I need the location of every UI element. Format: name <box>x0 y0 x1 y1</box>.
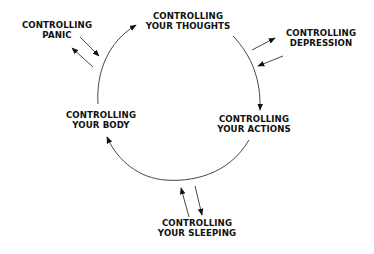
node-controlling-your-body: CONTROLLING YOUR BODY <box>58 110 144 130</box>
node-controlling-your-actions: CONTROLLING YOUR ACTIONS <box>210 114 298 134</box>
arrow-to-sleeping <box>195 186 202 215</box>
node-body-line1: CONTROLLING <box>58 110 144 120</box>
node-sleeping-line2: YOUR SLEEPING <box>152 228 242 238</box>
arrow-from-depression <box>258 56 283 66</box>
arrow-to-depression <box>252 38 275 50</box>
node-actions-line2: YOUR ACTIONS <box>210 124 298 134</box>
node-panic-line1: CONTROLLING <box>15 20 99 30</box>
node-sleeping-line1: CONTROLLING <box>152 218 242 228</box>
arrow-from-sleeping <box>181 188 189 217</box>
node-controlling-your-sleeping: CONTROLLING YOUR SLEEPING <box>152 218 242 238</box>
arc-thoughts-to-actions <box>233 36 260 110</box>
arc-body-to-thoughts <box>98 25 136 104</box>
node-body-line2: YOUR BODY <box>58 120 144 130</box>
node-panic-line2: PANIC <box>15 30 99 40</box>
node-controlling-your-thoughts: CONTROLLING YOUR THOUGHTS <box>136 11 240 31</box>
node-actions-line1: CONTROLLING <box>210 114 298 124</box>
arc-actions-to-body <box>107 137 249 180</box>
node-depression-line1: CONTROLLING <box>279 28 363 38</box>
node-thoughts-line2: YOUR THOUGHTS <box>136 21 240 31</box>
node-thoughts-line1: CONTROLLING <box>136 11 240 21</box>
node-controlling-depression: CONTROLLING DEPRESSION <box>279 28 363 48</box>
node-controlling-panic: CONTROLLING PANIC <box>15 20 99 40</box>
arrow-from-panic-cycle <box>72 48 93 67</box>
node-depression-line2: DEPRESSION <box>279 38 363 48</box>
